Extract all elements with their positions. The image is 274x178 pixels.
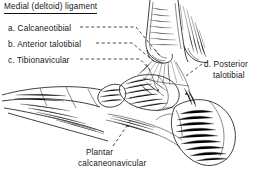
label-posterior-talotibial: d. Posterior talotibial (204, 60, 272, 81)
figure-title: Medial (deltoid) ligament (4, 2, 97, 14)
label-tibionavicular: c. Tibionavicular (8, 56, 70, 66)
plantar-calcaneonavicular-ligament (106, 114, 182, 147)
label-plantar-line1: Plantar (86, 148, 188, 159)
label-calcaneotibial: a. Calcaneotibial (8, 24, 71, 34)
label-anterior-talotibial: b. Anterior talotibial (8, 40, 81, 50)
dashed-leader-b (96, 43, 156, 63)
label-posterior-talotibial-line2: talotibial (213, 71, 272, 82)
dashed-leader-c (80, 59, 150, 70)
figure-canvas: Medial (deltoid) ligament a. Calcaneotib… (0, 0, 274, 178)
label-posterior-talotibial-line1: d. Posterior (204, 60, 248, 69)
label-plantar-line2: calcaneonavicular (78, 159, 188, 170)
label-plantar-calcaneonavicular: Plantar calcaneonavicular (78, 148, 188, 169)
figure-title-text: Medial (deltoid) ligament (4, 2, 97, 14)
dashed-leader-d (186, 64, 202, 76)
forefoot-metatarsals (2, 87, 108, 141)
tibia-shaft (146, 0, 208, 63)
